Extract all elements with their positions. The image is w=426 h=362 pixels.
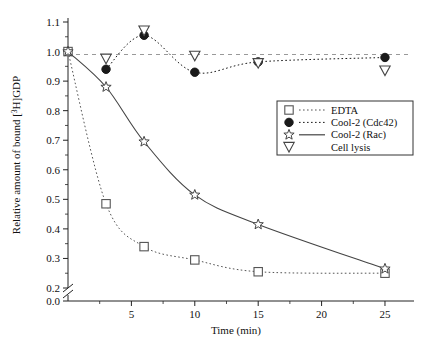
data-point <box>140 242 148 250</box>
data-point <box>191 256 199 264</box>
x-tick-label: 5 <box>129 308 135 320</box>
data-point <box>381 53 389 61</box>
y-tick-label: 0.5 <box>46 193 60 205</box>
y-tick-label: 0.4 <box>46 223 60 235</box>
y-ticks: 0.00.20.30.40.50.60.70.80.91.01.1 <box>46 16 68 307</box>
legend-marker <box>285 106 293 114</box>
x-axis-title: Time (min) <box>211 324 261 337</box>
series-cool-2-rac <box>63 46 390 273</box>
y-tick-label: 0.0 <box>46 295 60 307</box>
data-point <box>191 68 199 76</box>
x-tick-label: 10 <box>189 308 201 320</box>
y-axis-title: Relative amount of bound [3H]GDP <box>10 76 23 234</box>
y-tick-label: 1.0 <box>46 46 60 58</box>
data-point <box>190 51 200 61</box>
y-tick-label: 0.6 <box>46 164 60 176</box>
series-cell-lysis <box>101 26 390 76</box>
x-tick-label: 15 <box>253 308 265 320</box>
legend: EDTACool-2 (Cdc42)Cool-2 (Rac)Cell lysis <box>277 101 413 155</box>
series-line <box>68 52 385 274</box>
y-tick-label: 0.7 <box>46 134 60 146</box>
data-point <box>102 200 110 208</box>
series-cool-2-cdc42 <box>102 31 389 76</box>
figure-container: 0.00.20.30.40.50.60.70.80.91.01.15101520… <box>0 0 426 362</box>
y-tick-label: 1.1 <box>46 16 60 28</box>
data-point <box>101 54 111 64</box>
y-tick-label: 0.2 <box>46 282 60 294</box>
series-edta <box>64 47 389 277</box>
y-tick-label: 0.8 <box>46 105 60 117</box>
x-tick-label: 20 <box>316 308 328 320</box>
series-line <box>68 52 385 269</box>
legend-marker <box>285 118 293 126</box>
y-tick-label: 0.3 <box>46 252 60 264</box>
legend-label: Cool-2 (Cdc42) <box>331 117 398 129</box>
data-point <box>102 65 110 73</box>
data-point <box>253 219 263 229</box>
data-point <box>254 268 262 276</box>
axes <box>63 18 414 301</box>
y-tick-label: 0.9 <box>46 75 60 87</box>
x-ticks: 510152025 <box>100 301 391 320</box>
legend-label: Cell lysis <box>331 142 370 153</box>
data-point <box>380 66 390 76</box>
legend-label: EDTA <box>331 105 359 116</box>
x-tick-label: 25 <box>379 308 391 320</box>
legend-label: Cool-2 (Rac) <box>331 129 387 141</box>
chart-canvas: 0.00.20.30.40.50.60.70.80.91.01.15101520… <box>0 0 426 362</box>
